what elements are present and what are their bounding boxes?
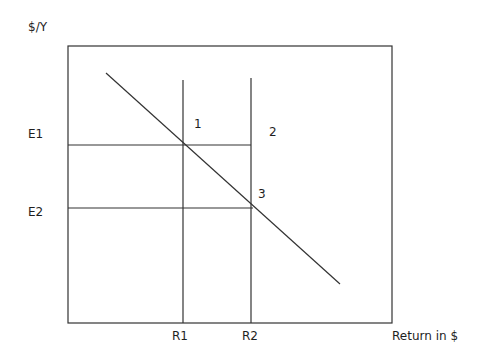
- x-axis-label: Return in $: [392, 329, 458, 343]
- region-3-label: 3: [258, 187, 266, 201]
- e1-label: E1: [28, 127, 43, 141]
- r1-label: R1: [172, 329, 188, 343]
- region-1-label: 1: [194, 117, 202, 131]
- diagonal-curve: [106, 73, 340, 284]
- diagram-canvas: [0, 0, 494, 359]
- region-2-label: 2: [269, 125, 277, 139]
- r2-label: R2: [242, 329, 258, 343]
- y-axis-label: $/Y: [28, 20, 47, 34]
- e2-label: E2: [28, 205, 43, 219]
